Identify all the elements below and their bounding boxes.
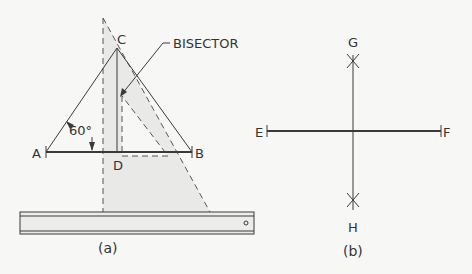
label-e: E xyxy=(255,125,263,140)
label-d: D xyxy=(113,158,123,173)
label-g: G xyxy=(348,35,358,50)
caption-b: (b) xyxy=(343,243,363,259)
figure-a: A B C D 60° BISECTOR (a) xyxy=(20,18,254,256)
label-a: A xyxy=(32,146,41,161)
label-f: F xyxy=(443,125,450,140)
label-c: C xyxy=(117,32,126,47)
angle-label: 60° xyxy=(69,123,92,138)
label-b: B xyxy=(195,146,204,161)
bisector-label: BISECTOR xyxy=(173,36,239,51)
construction-diagram: A B C D 60° BISECTOR (a) E F G H (b) xyxy=(0,0,472,274)
label-h: H xyxy=(348,220,358,235)
angle-arrowhead-lower-icon xyxy=(89,142,95,151)
caption-a: (a) xyxy=(98,240,118,256)
figure-b: E F G H (b) xyxy=(255,35,450,259)
